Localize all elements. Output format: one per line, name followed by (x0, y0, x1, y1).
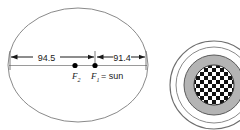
dimension-94-5-label: 94.5 (38, 53, 56, 63)
focus-f2-dot (72, 63, 77, 68)
diagram-canvas: 94.5 91.4 F 2 F 1 = sun (0, 0, 240, 130)
focus-f1-dot (92, 63, 97, 68)
concentric-disc-figure (170, 41, 240, 129)
figure-root: 94.5 91.4 F 2 F 1 = sun (0, 0, 240, 130)
focus-f1-annotation: = sun (101, 71, 123, 81)
focus-f1-subscript: 1 (97, 77, 100, 83)
focus-f2-subscript: 2 (78, 77, 81, 83)
checker-core (194, 65, 234, 105)
dimension-91-4-label: 91.4 (113, 53, 131, 63)
